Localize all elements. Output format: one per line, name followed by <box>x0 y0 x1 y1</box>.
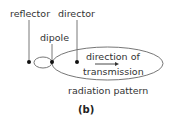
figure-caption: (b) <box>78 104 94 115</box>
reflector-loop <box>34 57 52 68</box>
direction-label-line1: direction of <box>86 51 140 62</box>
director-dot <box>75 60 79 64</box>
radiation-pattern-label: radiation pattern <box>68 85 148 96</box>
director-label: director <box>58 8 95 19</box>
antenna-diagram: reflector director dipole direction of t… <box>0 0 172 127</box>
reflector-label: reflector <box>10 8 50 19</box>
dipole-dot <box>50 60 54 64</box>
dipole-label: dipole <box>40 32 69 43</box>
reflector-dot <box>27 60 31 64</box>
direction-label-line2: transmission <box>83 66 144 77</box>
